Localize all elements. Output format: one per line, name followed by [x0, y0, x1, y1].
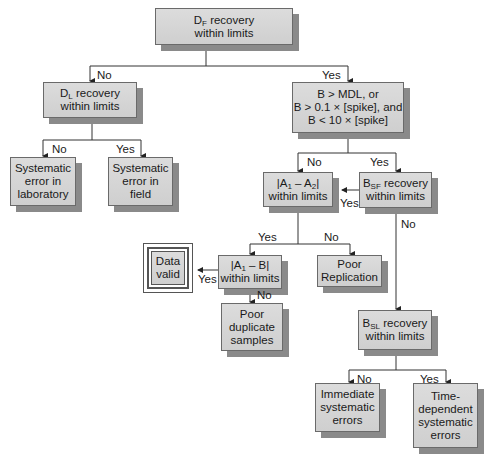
node-systematic-error-field: Systematic error in field	[108, 157, 173, 206]
node-text: recovery within limits	[195, 14, 255, 39]
node-systematic-error-laboratory: Systematic error in laboratory	[10, 157, 76, 206]
node-immediate-systematic-errors: Immediate systematic errors	[315, 383, 380, 432]
node-text: recovery within limits	[61, 87, 120, 112]
node-df-recovery: DF recovery within limits	[155, 8, 293, 45]
node-text: D	[194, 14, 202, 26]
node-time-dependent-systematic-errors: Time- dependent systematic errors	[413, 383, 478, 448]
node-text: Poor Replication	[321, 258, 378, 284]
edge-label-a1a2-yes: Yes	[258, 231, 277, 243]
node-border-inner: Data valid	[147, 247, 189, 289]
edge-label-a1b-no: No	[257, 289, 272, 301]
node-data-valid: Data valid	[143, 243, 193, 293]
node-poor-duplicate-samples: Poor duplicate samples	[221, 303, 283, 351]
node-blank-criteria: B > MDL, or B > 0.1 × [spike], and B < 1…	[292, 82, 404, 133]
node-a1-a2-within-limits: |A1 – A2| within limits	[263, 172, 333, 207]
edge-label-bsl-yes: Yes	[420, 373, 439, 385]
node-text: B > MDL, or B > 0.1 × [spike], and B < 1…	[294, 88, 403, 127]
node-text: Poor duplicate samples	[229, 308, 275, 347]
node-dl-recovery: DL recovery within limits	[43, 82, 137, 118]
edge-label-dl-no: No	[52, 143, 67, 155]
node-text: Systematic error in field	[112, 162, 168, 201]
node-text: Data valid	[151, 251, 185, 285]
edge-label-bsl-no: No	[357, 373, 372, 385]
node-poor-replication: Poor Replication	[317, 255, 382, 287]
node-text: recovery within limits	[366, 177, 428, 202]
node-bsf-recovery: BSF recovery within limits	[359, 172, 432, 208]
edge-label-a1a2-no: No	[324, 231, 339, 243]
node-bsl-recovery: BSL recovery within limits	[358, 310, 432, 350]
node-text: – B| within limits	[221, 259, 280, 284]
edge-label-dl-yes: Yes	[116, 143, 135, 155]
edge-label-df-yes: Yes	[322, 69, 341, 81]
node-text: |A	[231, 259, 242, 271]
edge-label-a1b-yes: Yes	[198, 273, 217, 285]
node-text: |A	[277, 177, 288, 189]
edge-label-bsf-yes: Yes	[340, 197, 359, 209]
node-text: – A	[292, 177, 312, 189]
edge-label-bmdl-no: No	[307, 156, 322, 168]
edge-label-df-no: No	[97, 69, 112, 81]
node-text: Immediate systematic errors	[320, 388, 374, 427]
edge-label-bmdl-yes: Yes	[370, 156, 389, 168]
node-text: Systematic error in laboratory	[15, 162, 71, 201]
node-text: recovery within limits	[366, 317, 428, 342]
edge-label-bsf-no: No	[401, 218, 416, 230]
node-text: Time- dependent systematic errors	[418, 390, 472, 442]
node-text: B	[363, 177, 371, 189]
node-a1-b-within-limits: |A1 – B| within limits	[218, 255, 282, 289]
